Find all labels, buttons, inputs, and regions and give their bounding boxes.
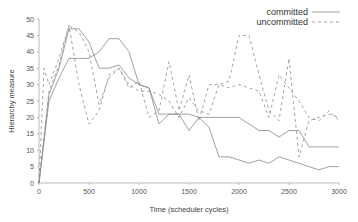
y-tick-label: 30 <box>26 81 34 88</box>
x-tick-label: 3000 <box>331 188 347 195</box>
legend-label-uncommitted: uncommitted <box>256 17 308 27</box>
y-tick-label: 5 <box>30 163 34 170</box>
y-tick-label: 0 <box>30 180 34 187</box>
y-tick-label: 20 <box>26 114 34 121</box>
series-line-uncommitted-3 <box>39 26 339 183</box>
x-tick-label: 2000 <box>231 188 247 195</box>
chart-canvas: 0500100015002000250030000510152025303540… <box>0 0 358 222</box>
x-tick-label: 0 <box>37 188 41 195</box>
axes: 0500100015002000250030000510152025303540… <box>26 16 347 196</box>
y-tick-label: 15 <box>26 130 34 137</box>
y-tick-label: 45 <box>26 32 34 39</box>
x-tick-label: 2500 <box>281 188 297 195</box>
x-tick-label: 500 <box>83 188 95 195</box>
legend-label-committed: committed <box>266 7 308 17</box>
x-tick-label: 1000 <box>131 188 147 195</box>
y-axis-label: Hierarchy measure <box>7 69 16 132</box>
y-tick-label: 10 <box>26 147 34 154</box>
y-tick-label: 35 <box>26 65 34 72</box>
plot-area <box>39 26 339 183</box>
x-axis-label: Time (scheduler cycles) <box>150 205 229 214</box>
legend: committed uncommitted <box>256 7 340 27</box>
series-line-uncommitted-2 <box>39 26 339 183</box>
y-tick-label: 50 <box>26 16 34 23</box>
y-tick-label: 25 <box>26 98 34 105</box>
y-tick-label: 40 <box>26 48 34 55</box>
x-tick-label: 1500 <box>181 188 197 195</box>
series-line-committed-1 <box>39 39 339 183</box>
